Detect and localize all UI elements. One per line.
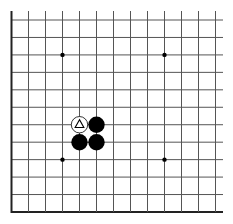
star-point-icon (60, 53, 64, 57)
star-point-icon (162, 53, 166, 57)
black-stone-icon[interactable] (88, 134, 104, 150)
black-stone-icon[interactable] (88, 117, 104, 133)
star-point-icon (60, 157, 64, 161)
go-board[interactable] (0, 0, 233, 224)
stones (71, 117, 104, 151)
star-point-icon (162, 157, 166, 161)
board-grid (12, 11, 224, 213)
black-stone-icon[interactable] (71, 134, 87, 150)
